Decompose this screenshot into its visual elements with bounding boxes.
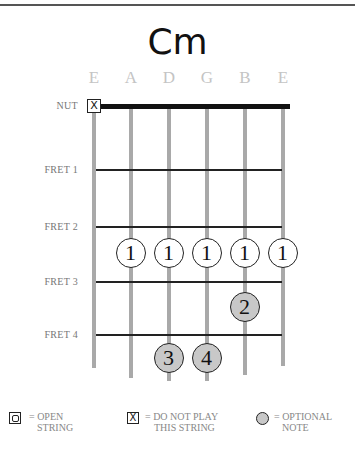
fret-label-3: FRET 3 [0, 276, 78, 287]
fret-line-2 [96, 226, 282, 228]
legend-open-line1: = OPEN [29, 411, 63, 422]
fret-line-1 [96, 169, 282, 171]
mute-string-icon: X [127, 412, 139, 424]
chord-title: Cm [0, 22, 355, 62]
string-label-low-e: E [84, 68, 104, 88]
string-low-e [92, 106, 96, 368]
finger-dot: 1 [268, 238, 298, 268]
legend-mute-line1: = DO NOT PLAY [145, 411, 218, 422]
fret-label-4: FRET 4 [0, 329, 78, 340]
string-label-d: D [159, 68, 179, 88]
finger-dot: 1 [116, 238, 146, 268]
fret-line-4 [96, 334, 282, 336]
string-high-e [281, 106, 285, 366]
string-label-high-e: E [273, 68, 293, 88]
legend-open-line2: STRING [37, 422, 73, 433]
open-string-icon [9, 412, 21, 424]
legend-mute-line2: THIS STRING [154, 422, 215, 433]
finger-dot: 1 [154, 238, 184, 268]
optional-finger-dot: 4 [192, 343, 222, 373]
fret-line-3 [96, 281, 282, 283]
fret-label-nut: NUT [0, 100, 78, 111]
optional-note-icon [256, 412, 269, 425]
mute-x-icon: X [87, 99, 101, 113]
x-glyph: X [128, 413, 138, 423]
finger-dot: 1 [230, 238, 260, 268]
legend-optional-line1: = OPTIONAL [274, 411, 332, 422]
optional-finger-dot: 3 [154, 343, 184, 373]
top-rule [0, 4, 355, 6]
string-label-b: B [235, 68, 255, 88]
fret-label-1: FRET 1 [0, 164, 78, 175]
nut [88, 104, 290, 109]
fret-label-2: FRET 2 [0, 221, 78, 232]
finger-dot: 1 [192, 238, 222, 268]
string-label-g: G [197, 68, 217, 88]
optional-finger-dot: 2 [230, 292, 260, 322]
string-label-a: A [121, 68, 141, 88]
open-circle-glyph [12, 415, 19, 422]
legend-optional-line2: NOTE [282, 422, 309, 433]
